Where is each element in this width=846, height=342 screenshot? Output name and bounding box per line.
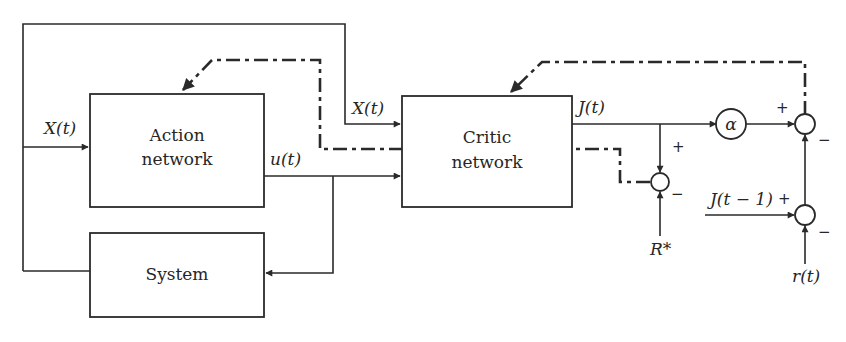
critic-network-label-2: network [451, 152, 523, 172]
sign-main-minus: − [818, 131, 831, 149]
action-network-label-2: network [141, 149, 213, 169]
lower-summing-junction [795, 205, 815, 225]
sign-main-plus: + [776, 99, 789, 117]
actor-critic-diagram: Action network Critic network System α X… [0, 0, 846, 342]
r-label: r(t) [792, 266, 820, 286]
r-star-label: R* [649, 239, 672, 259]
sign-error-minus: − [671, 185, 684, 203]
error-summing-junction [651, 173, 669, 191]
system-label: System [146, 264, 209, 284]
u-label: u(t) [270, 149, 301, 169]
j-label: J(t) [575, 97, 605, 117]
j-prev-label: J(t − 1) [707, 189, 773, 209]
alpha-gain-block: α [716, 109, 746, 139]
alpha-label: α [725, 114, 737, 134]
system-block: System [90, 233, 264, 317]
x-action-label: X(t) [42, 118, 76, 138]
action-network-block: Action network [90, 94, 264, 207]
x-critic-label: X(t) [350, 98, 384, 118]
critic-network-label-1: Critic [463, 127, 511, 147]
control-to-system-arrow [266, 176, 333, 273]
sign-error-plus: + [672, 138, 685, 156]
critic-network-block: Critic network [402, 96, 572, 207]
main-summing-junction [795, 114, 815, 134]
sign-lower-plus: + [778, 190, 791, 208]
sign-lower-minus: − [818, 223, 831, 241]
action-network-label-1: Action [148, 125, 204, 145]
